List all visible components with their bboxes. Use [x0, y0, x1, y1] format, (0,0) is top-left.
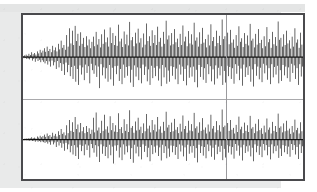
paper-background-top-band [0, 4, 305, 12]
scanned-page [0, 0, 317, 192]
time-cursor-line[interactable] [226, 15, 227, 179]
waveform-panel-channel-1[interactable] [23, 15, 303, 99]
waveform-plot-channel-1 [23, 15, 303, 99]
waveform-plot-channel-2 [23, 100, 303, 179]
waveform-figure-frame [21, 13, 305, 181]
waveform-panel-channel-2[interactable] [23, 100, 303, 179]
